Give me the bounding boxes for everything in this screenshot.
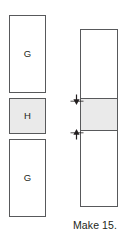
fabric-piece-g-bottom: G bbox=[9, 139, 46, 217]
fabric-piece-label: G bbox=[24, 49, 32, 59]
fabric-piece-g-top: G bbox=[9, 15, 46, 93]
strip-segment-g-bottom bbox=[81, 131, 117, 206]
arrow-up-icon bbox=[73, 129, 79, 140]
strip-segment-h-middle bbox=[81, 99, 117, 131]
arrow-down-icon bbox=[73, 95, 79, 106]
diagram-caption: Make 15. bbox=[62, 219, 128, 231]
assembled-strip-set bbox=[80, 29, 118, 207]
fabric-piece-label: H bbox=[24, 111, 31, 121]
fabric-piece-label: G bbox=[24, 173, 32, 183]
strip-segment-g-top bbox=[81, 30, 117, 99]
strip-set-diagram: G H G Make 15. bbox=[0, 0, 128, 242]
fabric-piece-h-middle: H bbox=[9, 98, 46, 134]
measurement-arrows bbox=[70, 94, 84, 140]
